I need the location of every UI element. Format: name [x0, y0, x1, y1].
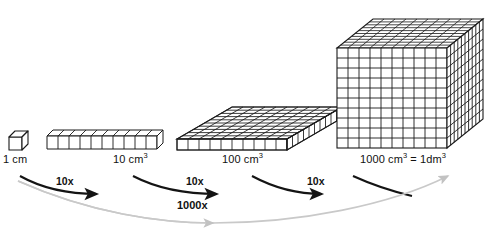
label-ten-cube-rod: 10 cm3 — [113, 153, 148, 165]
thousand-cube-block-shape — [337, 19, 483, 148]
total-arrow-label: 1000x — [177, 199, 208, 211]
total-arrow-1000x — [18, 176, 448, 223]
unit-cube-shape — [9, 131, 28, 150]
diagram-canvas: 1 cm 10 cm3 100 cm3 1000 cm3 = 1dm3 10x … — [0, 0, 504, 237]
step-arrow-1-label: 10x — [56, 175, 74, 187]
step-arrow-4-tail — [353, 176, 412, 196]
step-arrow-3-label: 10x — [307, 175, 325, 187]
label-thousand-cube-block: 1000 cm3 = 1dm3 — [360, 153, 446, 165]
label-unit-cube: 1 cm — [3, 153, 27, 165]
label-unit-cube-text: 1 cm — [3, 153, 27, 165]
label-thousand-cube-block-suffix-exponent: 3 — [442, 151, 446, 160]
step-arrow-2-label: 10x — [186, 175, 204, 187]
volume-units-diagram — [0, 0, 504, 237]
step-arrow-2 — [133, 176, 217, 194]
label-hundred-cube-flat-text: 100 cm — [222, 153, 259, 165]
label-hundred-cube-flat-exponent: 3 — [259, 151, 263, 160]
ten-cube-rod-shape — [47, 130, 163, 149]
label-ten-cube-rod-text: 10 cm — [113, 153, 143, 165]
label-hundred-cube-flat: 100 cm3 — [222, 153, 263, 165]
label-thousand-cube-block-suffix: = 1dm — [407, 153, 442, 165]
label-ten-cube-rod-exponent: 3 — [143, 151, 147, 160]
hundred-cube-flat-shape — [177, 107, 342, 150]
label-thousand-cube-block-text: 1000 cm — [360, 153, 403, 165]
